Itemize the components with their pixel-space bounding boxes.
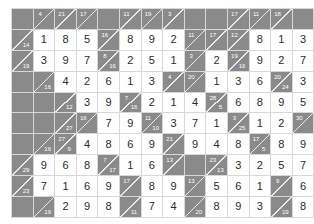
entry-cell-r7c9[interactable]: 9 [184,134,206,155]
entry-cell-r4c4[interactable]: 2 [76,71,98,92]
entry-cell-r10c4[interactable]: 9 [76,197,98,218]
entry-cell-r3c3[interactable]: 9 [55,50,77,71]
entry-cell-r7c4[interactable]: 4 [76,134,98,155]
entry-cell-r7c5[interactable]: 8 [98,134,120,155]
entry-cell-r2c2[interactable]: 1 [33,29,55,50]
entry-cell-r7c7[interactable]: 9 [141,134,163,155]
entry-cell-r3c7[interactable]: 5 [141,50,163,71]
clue-right-value: 16 [42,144,53,154]
entry-cell-r3c6[interactable]: 2 [119,50,141,71]
entry-cell-r3c4[interactable]: 7 [76,50,98,71]
entry-cell-r9c8[interactable]: 9 [163,176,185,197]
entry-value: 8 [106,200,112,212]
entry-cell-r10c7[interactable]: 7 [141,197,163,218]
entry-value: 9 [235,200,238,212]
entry-cell-r7c10[interactable]: 4 [206,134,228,155]
entry-value: 2 [170,33,176,45]
clue-down-value: 21 [56,9,67,19]
entry-cell-r8c2[interactable]: 9 [33,155,55,176]
clue-down-value: 17 [229,9,238,19]
entry-cell-r10c10[interactable]: 8 [206,197,228,218]
entry-cell-r2c7[interactable]: 9 [141,29,163,50]
clue-cell-r7c8: 21 [163,134,185,155]
entry-value: 1 [214,75,220,87]
clue-cell-r3c5: 816 [98,50,120,71]
entry-cell-r6c9[interactable]: 7 [184,113,206,134]
kakuro-grid: 4211711193171118141851689211171281319397… [11,8,238,218]
entry-cell-r3c8[interactable]: 1 [163,50,185,71]
entry-cell-r2c6[interactable]: 8 [119,29,141,50]
clue-right-value: 13 [215,165,226,175]
entry-cell-r9c4[interactable]: 6 [76,176,98,197]
entry-cell-r2c3[interactable]: 8 [55,29,77,50]
entry-cell-r10c11[interactable]: 9 [227,197,238,218]
entry-value: 2 [84,75,90,87]
clue-cell-r8c8: 13 [163,155,185,176]
entry-cell-r6c5[interactable]: 7 [98,113,120,134]
clue-down-value: 3 [164,9,175,19]
entry-cell-r8c11[interactable]: 3 [227,155,238,176]
entry-cell-r8c4[interactable]: 8 [76,155,98,176]
entry-cell-r4c5[interactable]: 6 [98,71,120,92]
entry-cell-r8c6[interactable]: 1 [119,155,141,176]
clue-down-value: 3 [186,51,197,61]
entry-cell-r2c8[interactable]: 2 [163,29,185,50]
kakuro-grid-body: 4211711193171118141851689211171281319397… [12,9,239,218]
entry-cell-r9c3[interactable]: 1 [55,176,77,197]
entry-cell-r4c6[interactable]: 1 [119,71,141,92]
clue-right-value: 19 [21,61,32,71]
entry-cell-r7c6[interactable]: 6 [119,134,141,155]
clue-cell-r1c6: 11 [119,9,141,30]
clue-cell-r8c1: 29 [12,155,34,176]
kakuro-row: 19397816251321916927 [12,50,239,71]
entry-cell-r4c3[interactable]: 4 [55,71,77,92]
entry-value: 6 [127,138,133,150]
entry-cell-r10c8[interactable]: 4 [163,197,185,218]
entry-value: 9 [192,138,198,150]
entry-cell-r4c7[interactable]: 3 [141,71,163,92]
entry-value: 9 [170,180,176,192]
clue-cell-r10c9: 20 [184,197,206,218]
clue-down-value: 11 [121,9,132,19]
entry-cell-r5c7[interactable]: 2 [141,92,163,113]
entry-cell-r6c8[interactable]: 3 [163,113,185,134]
entry-cell-r10c3[interactable]: 2 [55,197,77,218]
entry-cell-r5c5[interactable]: 9 [98,92,120,113]
clue-right-value: 20 [193,207,204,217]
entry-cell-r4c10[interactable]: 1 [206,71,228,92]
entry-cell-r5c9[interactable]: 4 [184,92,206,113]
entry-cell-r9c7[interactable]: 8 [141,176,163,197]
entry-value: 9 [127,117,133,129]
entry-cell-r8c3[interactable]: 6 [55,155,77,176]
entry-value: 3 [149,75,155,87]
entry-cell-r2c4[interactable]: 5 [76,29,98,50]
entry-cell-r3c2[interactable]: 3 [33,50,55,71]
entry-value: 9 [84,200,90,212]
entry-cell-r9c10[interactable]: 5 [206,176,228,197]
clue-down-value: 4 [35,9,46,19]
entry-value: 2 [62,200,68,212]
entry-cell-r6c6[interactable]: 9 [119,113,141,134]
entry-cell-r5c8[interactable]: 1 [163,92,185,113]
clue-down-value: 21 [164,134,175,144]
entry-cell-r4c11[interactable]: 3 [227,71,238,92]
entry-cell-r10c5[interactable]: 8 [98,197,120,218]
clue-cell-r1c7: 19 [141,9,163,30]
entry-value: 8 [62,33,68,45]
entry-cell-r9c5[interactable]: 9 [98,176,120,197]
entry-value: 7 [84,54,90,66]
clue-cell-r6c4: 16 [76,113,98,134]
entry-cell-r9c11[interactable]: 6 [227,176,238,197]
clue-right-value: 25 [237,123,238,133]
entry-cell-r5c11[interactable]: 6 [227,92,238,113]
entry-cell-r6c10[interactable]: 1 [206,113,228,134]
clue-down-value: 7 [121,93,132,103]
entry-cell-r3c10[interactable]: 2 [206,50,228,71]
entry-cell-r8c7[interactable]: 6 [141,155,163,176]
entry-cell-r5c4[interactable]: 3 [76,92,98,113]
clue-cell-r6c7: 1110 [141,113,163,134]
entry-value: 7 [192,117,198,129]
entry-cell-r9c2[interactable]: 7 [33,176,55,197]
entry-cell-r7c11[interactable]: 8 [227,134,238,155]
clue-down-value: 12 [229,30,238,40]
